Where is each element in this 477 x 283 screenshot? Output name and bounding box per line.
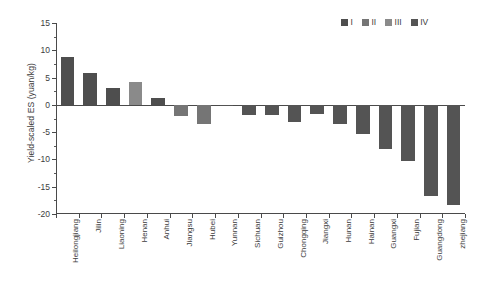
legend-label: IV — [420, 18, 428, 27]
legend-entry: III — [385, 18, 402, 27]
x-tick-label: Chongqing — [299, 219, 308, 279]
bar — [288, 105, 302, 122]
y-tick-label: -10 — [38, 154, 50, 164]
bar — [424, 105, 438, 196]
x-tick-mark — [420, 214, 421, 218]
bar — [83, 73, 97, 105]
bar — [106, 88, 120, 105]
y-tick-mark — [52, 132, 56, 133]
y-tick-mark — [52, 50, 56, 51]
bar — [265, 105, 279, 115]
y-tick-label: 15 — [41, 18, 50, 28]
y-minor-tick-mark — [54, 173, 57, 174]
legend-swatch-icon — [341, 19, 348, 26]
x-tick-label: Guizhou — [276, 219, 285, 279]
x-tick-mark — [442, 214, 443, 218]
x-tick-label: Hubei — [208, 219, 217, 279]
x-tick-mark — [238, 214, 239, 218]
bar — [401, 105, 415, 161]
x-tick-label: Heilongjiang — [71, 219, 80, 279]
y-minor-tick-mark — [54, 91, 57, 92]
y-axis-title: Yield-scaled ES (yuan/kg) — [26, 23, 36, 203]
y-minor-tick-mark — [54, 64, 57, 65]
x-tick-mark — [192, 214, 193, 218]
legend-label: II — [371, 18, 376, 27]
bar — [379, 105, 393, 149]
x-tick-label: zhejiang — [458, 219, 467, 279]
x-tick-mark — [215, 214, 216, 218]
x-tick-mark — [261, 214, 262, 218]
bar — [310, 105, 324, 114]
x-tick-mark — [397, 214, 398, 218]
legend-entry: I — [341, 18, 353, 27]
x-tick-label: Hainan — [367, 219, 376, 279]
bar — [333, 105, 347, 124]
bar — [220, 105, 234, 106]
x-tick-mark — [79, 214, 80, 218]
legend-entry: II — [362, 18, 376, 27]
bar — [129, 82, 143, 105]
x-tick-mark — [306, 214, 307, 218]
x-tick-mark — [170, 214, 171, 218]
x-tick-mark — [351, 214, 352, 218]
chart-figure: Yield-scaled ES (yuan/kg) 151050-5-10-15… — [0, 0, 477, 283]
y-minor-tick-mark — [54, 146, 57, 147]
y-tick-mark — [52, 187, 56, 188]
x-tick-label: Jiangxi — [321, 219, 330, 279]
y-tick-label: -20 — [38, 209, 50, 219]
x-tick-mark — [124, 214, 125, 218]
y-tick-label: -15 — [38, 182, 50, 192]
chart-legend: IIIIIIIV — [341, 18, 428, 27]
legend-swatch-icon — [385, 19, 392, 26]
x-tick-label: Guangdong — [435, 219, 444, 279]
x-tick-label: Guangxi — [389, 219, 398, 279]
x-tick-mark — [101, 214, 102, 218]
y-minor-tick-mark — [54, 119, 57, 120]
bar — [242, 105, 256, 115]
legend-swatch-icon — [411, 19, 418, 26]
x-tick-label: Jiangsu — [185, 219, 194, 279]
y-tick-mark — [52, 78, 56, 79]
legend-entry: IV — [411, 18, 429, 27]
y-tick-label: 0 — [45, 100, 50, 110]
legend-swatch-icon — [362, 19, 369, 26]
x-tick-mark — [465, 214, 466, 218]
y-tick-mark — [52, 159, 56, 160]
y-minor-tick-mark — [54, 37, 57, 38]
y-tick-mark — [52, 105, 56, 106]
legend-label: I — [351, 18, 353, 27]
x-tick-label: Hunan — [344, 219, 353, 279]
bar — [174, 105, 188, 116]
x-tick-label: Jilin — [94, 219, 103, 279]
bar — [197, 105, 211, 125]
x-tick-label: Yunnan — [230, 219, 239, 279]
bar — [61, 57, 75, 104]
y-tick-label: 5 — [45, 73, 50, 83]
x-tick-label: Anhui — [162, 219, 171, 279]
x-tick-mark — [56, 214, 57, 218]
y-tick-mark — [52, 23, 56, 24]
bar — [447, 105, 461, 205]
legend-label: III — [395, 18, 402, 27]
x-tick-label: Henan — [140, 219, 149, 279]
x-tick-mark — [374, 214, 375, 218]
x-tick-mark — [147, 214, 148, 218]
bar — [151, 98, 165, 105]
y-axis-line — [56, 23, 57, 214]
x-tick-label: Liaoning — [117, 219, 126, 279]
x-tick-mark — [329, 214, 330, 218]
x-tick-label: Sichuan — [253, 219, 262, 279]
bar — [356, 105, 370, 134]
y-minor-tick-mark — [54, 200, 57, 201]
x-tick-mark — [283, 214, 284, 218]
y-tick-label: 10 — [41, 45, 50, 55]
y-tick-label: -5 — [42, 127, 50, 137]
plot-area: 151050-5-10-15-20 — [56, 23, 465, 214]
x-tick-label: Fujian — [412, 219, 421, 279]
